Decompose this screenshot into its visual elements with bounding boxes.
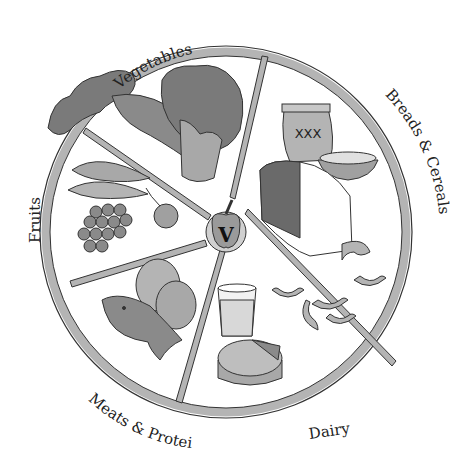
center-letter: V bbox=[217, 223, 234, 247]
label-fruits: Fruits bbox=[26, 197, 44, 243]
food-wheel: V XXX bbox=[0, 0, 452, 456]
bag-label: XXX bbox=[295, 126, 322, 141]
label-dairy: Dairy bbox=[308, 419, 352, 443]
